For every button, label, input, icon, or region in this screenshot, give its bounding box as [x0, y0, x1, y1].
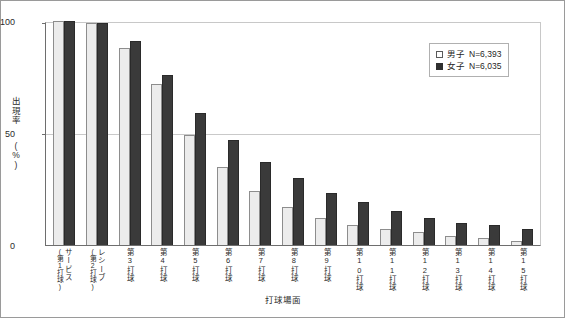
legend-label-male: 男子: [447, 48, 465, 60]
bar-group: [81, 23, 114, 245]
bar-女子-7: [260, 162, 271, 245]
bar-group: [113, 23, 146, 245]
x-axis-title: 打球場面: [1, 293, 564, 305]
x-axis-label-main: 第6打球: [223, 248, 232, 282]
bar-group: [277, 23, 310, 245]
legend-label-female: 女子: [447, 60, 465, 72]
bar-男子-1: [53, 21, 64, 245]
bar-女子-1: [64, 21, 75, 245]
x-axis-label-main: 第4打球: [158, 248, 167, 282]
bar-女子-10: [358, 202, 369, 245]
bar-女子-9: [326, 193, 337, 245]
bar-女子-3: [130, 41, 141, 245]
bar-女子-6: [228, 140, 239, 245]
legend-n-male: N=6,393: [469, 48, 501, 60]
bar-女子-13: [456, 223, 467, 245]
legend-n-female: N=6,035: [469, 60, 501, 72]
bar-男子-15: [511, 241, 522, 245]
bar-男子-11: [380, 229, 391, 245]
bar-男子-9: [315, 218, 326, 245]
bar-group: [309, 23, 342, 245]
x-axis-label-sub: (第2打球): [88, 248, 97, 290]
y-tick-label-100: 100: [0, 18, 15, 27]
bar-group: [211, 23, 244, 245]
x-axis-label-main: サービス: [63, 248, 72, 281]
bar-男子-13: [445, 236, 456, 245]
bar-男子-7: [249, 191, 260, 245]
bar-group: [342, 23, 375, 245]
bar-group: [505, 23, 538, 245]
x-axis-label-sub: (第1打球): [55, 248, 64, 290]
bar-男子-3: [119, 48, 130, 245]
bar-group: [146, 23, 179, 245]
bar-男子-6: [217, 167, 228, 245]
bar-女子-14: [489, 225, 500, 245]
bar-group: [48, 23, 81, 245]
x-axis-label-main: 第13打球: [453, 248, 462, 292]
y-axis-title-char: 率: [9, 116, 23, 126]
x-axis-label-main: 第12打球: [420, 248, 429, 292]
x-axis-label-main: 第10打球: [354, 248, 363, 292]
bar-group: [244, 23, 277, 245]
bar-女子-15: [522, 229, 533, 245]
bar-男子-5: [184, 135, 195, 245]
bar-女子-4: [162, 75, 173, 245]
bar-group: [375, 23, 408, 245]
bar-男子-4: [151, 84, 162, 245]
legend-item-male: 男子 N=6,393: [436, 48, 501, 60]
x-axis-label-main: 第3打球: [125, 248, 134, 282]
legend-item-female: 女子 N=6,035: [436, 60, 501, 72]
bar-男子-8: [282, 207, 293, 245]
bar-男子-12: [413, 232, 424, 245]
bar-男子-14: [478, 238, 489, 245]
bar-女子-2: [97, 23, 108, 245]
x-axis-label-main: 第8打球: [289, 248, 298, 282]
y-tick-label-0: 0: [0, 242, 15, 251]
x-axis-label-main: 第9打球: [322, 248, 331, 282]
bar-男子-10: [347, 225, 358, 245]
bar-女子-5: [195, 113, 206, 245]
chart-figure: 100 50 0 出 現 率 ( % ) (第1打球)サービス(第2打球)レシー…: [0, 0, 565, 318]
x-axis-label-main: レシーブ: [96, 248, 105, 281]
bar-女子-12: [424, 218, 435, 245]
bar-group: [179, 23, 212, 245]
filled-square-icon: [436, 63, 443, 70]
y-axis-title-char: ): [9, 161, 23, 171]
x-axis-label-main: 第14打球: [486, 248, 495, 292]
y-axis-title: 出 現 率 ( % ): [9, 97, 23, 170]
bar-女子-11: [391, 211, 402, 245]
chart-legend: 男子 N=6,393 女子 N=6,035: [429, 43, 509, 77]
x-axis-label-main: 第5打球: [190, 248, 199, 282]
bar-女子-8: [293, 178, 304, 245]
x-axis-label-main: 第11打球: [387, 248, 396, 292]
x-axis-label-main: 第15打球: [518, 248, 527, 292]
bar-男子-2: [86, 23, 97, 245]
open-square-icon: [436, 51, 443, 58]
x-axis-label-main: 第7打球: [256, 248, 265, 282]
